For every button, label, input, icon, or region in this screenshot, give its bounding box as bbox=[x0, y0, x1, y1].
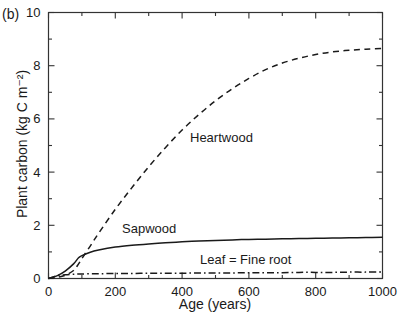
series-line-heartwood bbox=[49, 48, 383, 278]
x-tick-label: 400 bbox=[152, 285, 212, 298]
y-tick-label: 10 bbox=[7, 6, 41, 19]
x-tick-label: 600 bbox=[219, 285, 279, 298]
x-tick-label: 1000 bbox=[353, 285, 402, 298]
y-tick-label: 2 bbox=[7, 219, 41, 232]
series-label-leaf-fine-root: Leaf = Fine root bbox=[200, 253, 291, 266]
y-tick-label: 4 bbox=[7, 166, 41, 179]
x-tick-label: 800 bbox=[286, 285, 346, 298]
y-tick-label: 8 bbox=[7, 59, 41, 72]
y-tick-label: 6 bbox=[7, 112, 41, 125]
x-tick-label: 0 bbox=[19, 285, 79, 298]
x-tick-label: 200 bbox=[85, 285, 145, 298]
y-tick-label: 0 bbox=[7, 272, 41, 285]
series-label-sapwood: Sapwood bbox=[122, 222, 176, 235]
series-label-heartwood: Heartwood bbox=[190, 131, 253, 144]
